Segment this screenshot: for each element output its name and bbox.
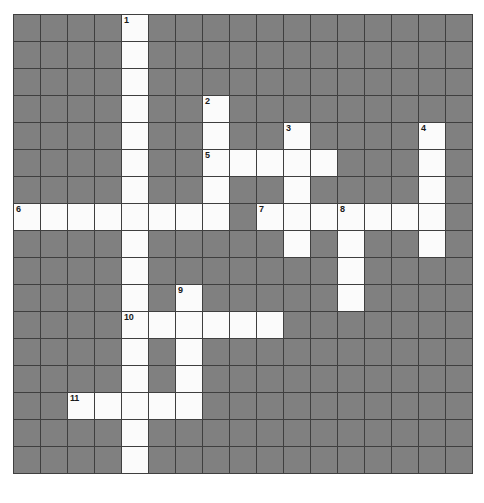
crossword-cell-open[interactable]	[230, 312, 257, 339]
crossword-cell-block	[311, 123, 338, 150]
crossword-cell-block	[311, 447, 338, 474]
crossword-cell-open[interactable]	[176, 312, 203, 339]
crossword-cell-open[interactable]	[122, 42, 149, 69]
crossword-cell-block	[230, 177, 257, 204]
crossword-cell-open[interactable]	[257, 150, 284, 177]
crossword-cell-open[interactable]	[122, 150, 149, 177]
crossword-cell-block	[41, 339, 68, 366]
crossword-row: 9	[14, 285, 473, 312]
crossword-cell-open[interactable]	[176, 393, 203, 420]
crossword-cell-open[interactable]	[122, 177, 149, 204]
crossword-cell-block	[41, 42, 68, 69]
crossword-cell-block	[230, 447, 257, 474]
crossword-cell-open[interactable]: 4	[419, 123, 446, 150]
crossword-row: 10	[14, 312, 473, 339]
crossword-cell-block	[68, 258, 95, 285]
crossword-cell-open[interactable]: 2	[203, 96, 230, 123]
crossword-cell-open[interactable]: 11	[68, 393, 95, 420]
crossword-cell-block	[392, 177, 419, 204]
crossword-cell-open[interactable]	[122, 258, 149, 285]
crossword-cell-open[interactable]: 10	[122, 312, 149, 339]
crossword-cell-block	[14, 420, 41, 447]
crossword-cell-open[interactable]	[284, 150, 311, 177]
crossword-cell-open[interactable]	[122, 339, 149, 366]
crossword-cell-open[interactable]: 3	[284, 123, 311, 150]
crossword-row	[14, 42, 473, 69]
crossword-cell-open[interactable]	[338, 258, 365, 285]
crossword-cell-open[interactable]	[230, 150, 257, 177]
crossword-cell-open[interactable]	[338, 231, 365, 258]
crossword-cell-open[interactable]	[365, 204, 392, 231]
crossword-cell-block	[419, 420, 446, 447]
crossword-cell-block	[176, 96, 203, 123]
crossword-cell-open[interactable]	[419, 204, 446, 231]
crossword-row: 11	[14, 393, 473, 420]
crossword-cell-open[interactable]	[176, 366, 203, 393]
crossword-cell-block	[311, 96, 338, 123]
crossword-cell-open[interactable]	[257, 312, 284, 339]
crossword-cell-open[interactable]	[122, 447, 149, 474]
crossword-cell-open[interactable]	[122, 393, 149, 420]
crossword-cell-open[interactable]: 5	[203, 150, 230, 177]
crossword-cell-block	[95, 123, 122, 150]
crossword-cell-open[interactable]	[122, 69, 149, 96]
crossword-cell-open[interactable]	[203, 123, 230, 150]
crossword-cell-open[interactable]	[338, 285, 365, 312]
crossword-cell-open[interactable]	[122, 285, 149, 312]
crossword-cell-open[interactable]: 9	[176, 285, 203, 312]
crossword-cell-open[interactable]: 7	[257, 204, 284, 231]
crossword-cell-open[interactable]	[68, 204, 95, 231]
crossword-cell-block	[230, 96, 257, 123]
crossword-cell-open[interactable]	[41, 204, 68, 231]
crossword-cell-open[interactable]	[122, 96, 149, 123]
crossword-cell-block	[392, 285, 419, 312]
crossword-cell-block	[311, 366, 338, 393]
crossword-cell-block	[392, 15, 419, 42]
crossword-cell-open[interactable]	[122, 231, 149, 258]
crossword-cell-open[interactable]	[122, 420, 149, 447]
crossword-cell-open[interactable]	[311, 150, 338, 177]
crossword-cell-block	[419, 96, 446, 123]
crossword-cell-open[interactable]	[176, 204, 203, 231]
crossword-cell-block	[257, 15, 284, 42]
crossword-cell-open[interactable]	[284, 231, 311, 258]
crossword-cell-open[interactable]	[122, 204, 149, 231]
crossword-cell-open[interactable]: 1	[122, 15, 149, 42]
crossword-cell-open[interactable]	[149, 312, 176, 339]
crossword-cell-block	[95, 285, 122, 312]
crossword-cell-open[interactable]	[203, 177, 230, 204]
crossword-cell-block	[41, 312, 68, 339]
crossword-cell-block	[68, 177, 95, 204]
crossword-cell-block	[68, 69, 95, 96]
crossword-cell-block	[149, 15, 176, 42]
crossword-cell-open[interactable]	[419, 231, 446, 258]
crossword-cell-block	[176, 231, 203, 258]
crossword-cell-block	[338, 393, 365, 420]
crossword-cell-open[interactable]	[122, 123, 149, 150]
crossword-cell-open[interactable]	[95, 393, 122, 420]
crossword-cell-open[interactable]	[419, 177, 446, 204]
crossword-grid[interactable]: 1234567891011	[13, 14, 473, 474]
crossword-cell-open[interactable]	[149, 393, 176, 420]
crossword-cell-block	[14, 285, 41, 312]
crossword-cell-open[interactable]	[419, 150, 446, 177]
crossword-cell-open[interactable]	[392, 204, 419, 231]
crossword-cell-open[interactable]	[203, 312, 230, 339]
crossword-cell-block	[203, 231, 230, 258]
crossword-cell-block	[41, 150, 68, 177]
crossword-cell-block	[41, 393, 68, 420]
crossword-cell-open[interactable]	[203, 204, 230, 231]
crossword-cell-open[interactable]	[284, 204, 311, 231]
crossword-cell-open[interactable]	[176, 339, 203, 366]
crossword-cell-open[interactable]	[311, 204, 338, 231]
crossword-cell-open[interactable]	[122, 366, 149, 393]
crossword-cell-block	[230, 69, 257, 96]
crossword-cell-open[interactable]: 8	[338, 204, 365, 231]
crossword-cell-block	[365, 69, 392, 96]
crossword-cell-open[interactable]	[149, 204, 176, 231]
crossword-cell-block	[446, 258, 473, 285]
crossword-cell-open[interactable]	[284, 177, 311, 204]
crossword-cell-open[interactable]: 6	[14, 204, 41, 231]
crossword-cell-block	[284, 339, 311, 366]
crossword-cell-open[interactable]	[95, 204, 122, 231]
